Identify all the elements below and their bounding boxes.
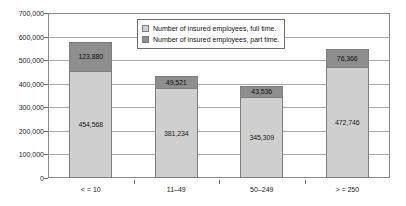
legend-item: Number of insured employees, part time. [142, 34, 279, 45]
x-axis-tick-label: 50–249 [219, 186, 305, 193]
bar-value-label: 76,366 [337, 55, 358, 62]
bar-group: 123,880454,568 [69, 42, 112, 178]
x-axis-tick-mark [219, 180, 220, 184]
x-axis-tick-mark [305, 180, 306, 184]
y-axis: 700,000600,000500,000400,000300,000200,0… [0, 0, 44, 206]
bar-segment-full-time: 454,568 [69, 71, 112, 178]
x-axis: < = 1011–4950–249> = 250 [48, 180, 390, 202]
bar-group: 49,521381,234 [155, 76, 198, 178]
y-axis-tick-label: 100,000 [0, 151, 44, 158]
legend-label: Number of insured employees, full time. [153, 25, 276, 32]
bar-value-label: 454,568 [78, 121, 103, 128]
x-axis-tick-label: 11–49 [134, 186, 220, 193]
y-axis-tick-mark [44, 178, 48, 179]
x-axis-tick-mark [134, 180, 135, 184]
bar-group: 43,536345,309 [240, 86, 283, 178]
bar-segment-full-time: 345,309 [240, 97, 283, 178]
bar-segment-part-time: 49,521 [155, 76, 198, 88]
bar-group: 76,366472,746 [326, 49, 369, 178]
bar-segment-part-time: 123,880 [69, 42, 112, 71]
y-axis-tick-label: 500,000 [0, 57, 44, 64]
legend-swatch-icon [142, 25, 149, 32]
legend-item: Number of insured employees, full time. [142, 23, 279, 34]
chart-legend: Number of insured employees, full time.N… [137, 19, 285, 49]
bar-segment-full-time: 381,234 [155, 88, 198, 178]
y-axis-tick-label: 700,000 [0, 10, 44, 17]
bar-value-label: 123,880 [78, 53, 103, 60]
bar-value-label: 381,234 [164, 130, 189, 137]
legend-swatch-icon [142, 36, 149, 43]
bar-value-label: 472,746 [335, 119, 360, 126]
y-axis-tick-label: 200,000 [0, 127, 44, 134]
bar-value-label: 49,521 [166, 79, 187, 86]
bar-value-label: 43,536 [251, 88, 272, 95]
stacked-bar-chart: 700,000600,000500,000400,000300,000200,0… [0, 0, 406, 206]
x-axis-tick-label: < = 10 [48, 186, 134, 193]
y-axis-tick-label: 0 [0, 175, 44, 182]
y-axis-tick-label: 400,000 [0, 80, 44, 87]
bar-segment-full-time: 472,746 [326, 67, 369, 178]
legend-label: Number of insured employees, part time. [153, 36, 279, 43]
bar-value-label: 345,309 [249, 134, 274, 141]
y-axis-tick-label: 300,000 [0, 104, 44, 111]
y-axis-tick-label: 600,000 [0, 33, 44, 40]
x-axis-tick-label: > = 250 [305, 186, 391, 193]
bar-segment-part-time: 76,366 [326, 49, 369, 67]
bar-segment-part-time: 43,536 [240, 86, 283, 96]
